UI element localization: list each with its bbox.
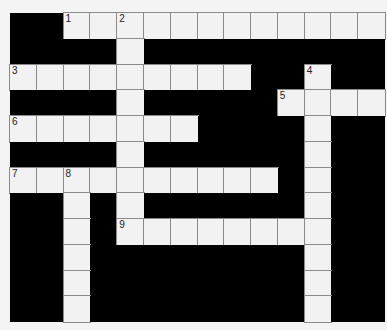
- crossword-cell[interactable]: [305, 296, 332, 322]
- crossword-cell[interactable]: [278, 219, 305, 245]
- crossword-cell[interactable]: [305, 193, 332, 219]
- blocked-cell: [331, 245, 358, 271]
- crossword-cell[interactable]: 5: [278, 90, 305, 116]
- blocked-cell: [278, 245, 305, 271]
- blocked-cell: [331, 39, 358, 65]
- crossword-cell[interactable]: [64, 193, 91, 219]
- crossword-cell[interactable]: [144, 116, 171, 142]
- crossword-cell[interactable]: [171, 65, 198, 91]
- blocked-cell: [10, 90, 37, 116]
- crossword-cell[interactable]: [144, 168, 171, 194]
- crossword-cell[interactable]: [198, 168, 225, 194]
- crossword-cell[interactable]: [198, 13, 225, 39]
- blocked-cell: [358, 168, 385, 194]
- crossword-cell[interactable]: [64, 245, 91, 271]
- crossword-cell[interactable]: [117, 168, 144, 194]
- blocked-cell: [144, 39, 171, 65]
- crossword-cell[interactable]: [331, 13, 358, 39]
- blocked-cell: [64, 90, 91, 116]
- blocked-cell: [198, 271, 225, 297]
- crossword-cell[interactable]: [305, 271, 332, 297]
- crossword-cell[interactable]: [64, 296, 91, 322]
- crossword-cell[interactable]: [90, 13, 117, 39]
- crossword-cell[interactable]: [37, 65, 64, 91]
- crossword-cell[interactable]: [64, 65, 91, 91]
- blocked-cell: [224, 142, 251, 168]
- crossword-cell[interactable]: 3: [10, 65, 37, 91]
- crossword-cell[interactable]: [171, 168, 198, 194]
- blocked-cell: [331, 142, 358, 168]
- crossword-cell[interactable]: [117, 142, 144, 168]
- crossword-cell[interactable]: [144, 13, 171, 39]
- crossword-cell[interactable]: [144, 65, 171, 91]
- crossword-cell[interactable]: [117, 65, 144, 91]
- blocked-cell: [10, 142, 37, 168]
- clue-number: 9: [119, 220, 125, 230]
- crossword-cell[interactable]: [224, 13, 251, 39]
- crossword-cell[interactable]: [305, 142, 332, 168]
- crossword-cell[interactable]: [117, 116, 144, 142]
- crossword-cell[interactable]: [64, 219, 91, 245]
- crossword-cell[interactable]: [224, 219, 251, 245]
- blocked-cell: [171, 39, 198, 65]
- crossword-cell[interactable]: [305, 219, 332, 245]
- crossword-cell[interactable]: [117, 90, 144, 116]
- blocked-cell: [90, 219, 117, 245]
- crossword-cell[interactable]: [251, 13, 278, 39]
- blocked-cell: [10, 193, 37, 219]
- crossword-cell[interactable]: [37, 116, 64, 142]
- crossword-cell[interactable]: [278, 13, 305, 39]
- crossword-cell[interactable]: [117, 193, 144, 219]
- clue-number: 6: [12, 117, 18, 127]
- crossword-cell[interactable]: [224, 65, 251, 91]
- blocked-cell: [198, 296, 225, 322]
- clue-number: 4: [307, 66, 313, 76]
- crossword-cell[interactable]: [198, 65, 225, 91]
- crossword-cell[interactable]: 9: [117, 219, 144, 245]
- crossword-cell[interactable]: [305, 245, 332, 271]
- crossword-cell[interactable]: [251, 168, 278, 194]
- crossword-cell[interactable]: [305, 90, 332, 116]
- crossword-cell[interactable]: 1: [64, 13, 91, 39]
- crossword-cell[interactable]: [198, 219, 225, 245]
- blocked-cell: [251, 296, 278, 322]
- crossword-cell[interactable]: [331, 90, 358, 116]
- blocked-cell: [90, 296, 117, 322]
- crossword-cell[interactable]: [305, 13, 332, 39]
- blocked-cell: [224, 116, 251, 142]
- crossword-cell[interactable]: [358, 90, 385, 116]
- crossword-cell[interactable]: 8: [64, 168, 91, 194]
- crossword-cell[interactable]: [144, 219, 171, 245]
- crossword-cell[interactable]: [305, 168, 332, 194]
- crossword-cell[interactable]: [64, 271, 91, 297]
- blocked-cell: [37, 39, 64, 65]
- crossword-cell[interactable]: [171, 116, 198, 142]
- crossword-cell[interactable]: 6: [10, 116, 37, 142]
- blocked-cell: [144, 142, 171, 168]
- crossword-cell[interactable]: [358, 13, 385, 39]
- crossword-cell[interactable]: [171, 13, 198, 39]
- crossword-cell[interactable]: [90, 168, 117, 194]
- blocked-cell: [224, 296, 251, 322]
- crossword-cell[interactable]: [305, 116, 332, 142]
- crossword-cell[interactable]: [90, 65, 117, 91]
- clue-number: 2: [119, 14, 125, 24]
- blocked-cell: [171, 271, 198, 297]
- blocked-cell: [331, 296, 358, 322]
- crossword-cell[interactable]: [224, 168, 251, 194]
- crossword-cell[interactable]: 4: [305, 65, 332, 91]
- blocked-cell: [171, 296, 198, 322]
- clue-number: 7: [12, 169, 18, 179]
- blocked-cell: [331, 168, 358, 194]
- crossword-cell[interactable]: [171, 219, 198, 245]
- blocked-cell: [251, 39, 278, 65]
- blocked-cell: [64, 39, 91, 65]
- crossword-cell[interactable]: [117, 39, 144, 65]
- crossword-cell[interactable]: 7: [10, 168, 37, 194]
- crossword-cell[interactable]: [90, 116, 117, 142]
- crossword-cell[interactable]: [251, 219, 278, 245]
- crossword-cell[interactable]: [37, 168, 64, 194]
- crossword-cell[interactable]: 2: [117, 13, 144, 39]
- crossword-cell[interactable]: [64, 116, 91, 142]
- blocked-cell: [278, 193, 305, 219]
